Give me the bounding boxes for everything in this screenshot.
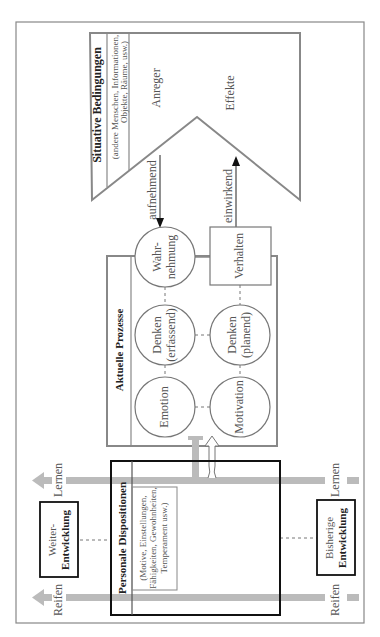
- weiter-line1: Weiter-: [46, 510, 59, 570]
- node-wahrnehmung-label: Wahr- nehmung: [151, 235, 179, 280]
- node-motivation-label: Motivation: [233, 380, 247, 433]
- label-reifen-left: Reifen: [52, 584, 66, 616]
- node-verhalten-label: Verhalten: [233, 233, 247, 279]
- bisherige-entwicklung-label: Bisherige Entwicklung: [323, 508, 348, 568]
- node-denken-planend-label: Denken (planend): [226, 312, 254, 358]
- personale-box: [111, 461, 280, 615]
- hollow-up-arrow-icon: [205, 436, 219, 478]
- personale-sub-line3: Temperament usw.): [159, 487, 169, 589]
- label-aufnehmend: aufnehmend: [146, 160, 160, 219]
- node-denken-planend-line2: (planend): [240, 312, 254, 358]
- node-denken-erfassend-line1: Denken: [151, 308, 165, 361]
- node-wahrnehmung-line2: nehmung: [165, 235, 179, 280]
- personale-sub-text: (Motive, Einstellungen, Fähigkeiten, Gew…: [138, 487, 169, 589]
- personale-title: Personale Dispositionen: [116, 482, 129, 594]
- reifen-arrowhead-icon: [32, 589, 44, 606]
- node-denken-erfassend-line2: (erfassend): [165, 308, 179, 361]
- reifen-band-right: [347, 594, 359, 601]
- label-einwirkend: einwirkend: [222, 169, 236, 223]
- personale-sub-line1: (Motive, Einstellungen,: [138, 487, 148, 589]
- label-effekte: Effekte: [224, 75, 238, 110]
- lernen-band-right: [347, 477, 359, 484]
- lernen-arrowhead-icon: [32, 472, 44, 489]
- arrowhead-up-icon: [232, 156, 240, 166]
- node-denken-erfassend-label: Denken (erfassend): [151, 308, 179, 361]
- label-anreger: Anreger: [150, 68, 164, 107]
- label-reifen-right: Reifen: [329, 584, 343, 616]
- weiter-line2: Entwicklung: [59, 510, 72, 570]
- situative-subtitle-2: Objekte, Räume, usw.): [119, 41, 129, 123]
- bisherige-line2: Entwicklung: [336, 508, 349, 568]
- node-wahrnehmung-line1: Wahr-: [151, 235, 165, 280]
- node-denken-planend-line1: Denken: [226, 312, 240, 358]
- aktuelle-title: Aktuelle Prozesse: [113, 309, 126, 392]
- node-emotion-label: Emotion: [158, 386, 172, 427]
- personale-sub-line2: Fähigkeiten, Gewohnheiten,: [149, 487, 159, 589]
- label-lernen-right: Lernen: [329, 463, 343, 497]
- bisherige-line1: Bisherige: [323, 508, 336, 568]
- situative-title: Situative Bedingungen: [91, 47, 105, 163]
- label-lernen-left: Lernen: [52, 463, 66, 497]
- weiter-entwicklung-label: Weiter- Entwicklung: [46, 510, 71, 570]
- vertical-gray-bar: [192, 436, 199, 482]
- reifen-band-left: [44, 594, 344, 601]
